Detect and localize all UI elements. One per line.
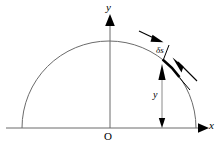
delta-s-upper-pointer-arrowhead-icon bbox=[151, 35, 164, 42]
delta-s-leader-upper bbox=[163, 45, 169, 60]
y-axis-label: y bbox=[106, 2, 111, 13]
semicircle-arc bbox=[22, 41, 196, 128]
delta-s-leader-lower bbox=[179, 77, 190, 90]
geometry-figure: y x O δs y bbox=[0, 0, 220, 155]
x-axis-arrowhead-icon bbox=[198, 123, 209, 133]
x-axis-label: x bbox=[209, 120, 214, 131]
arc-element-label: δs bbox=[156, 46, 164, 55]
ordinate-top-arrowhead-icon bbox=[158, 64, 165, 80]
ordinate-bottom-arrowhead-icon bbox=[159, 118, 165, 128]
origin-label: O bbox=[104, 131, 112, 142]
y-axis-arrowhead-icon bbox=[105, 14, 115, 26]
ordinate-label: y bbox=[153, 90, 157, 100]
